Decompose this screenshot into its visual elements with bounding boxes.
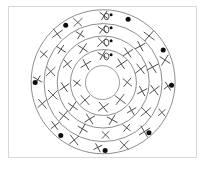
x-mark [46,67,55,76]
x-mark [135,64,145,74]
x-mark [38,99,47,108]
ring-label-x0 [104,53,113,60]
filled-dot-marker [126,17,131,22]
filled-dot-marker [161,47,166,52]
x-mark [77,124,87,134]
filled-dot-marker [63,23,68,28]
x-mark [149,85,159,95]
x-mark [160,55,170,65]
x-mark [158,109,165,116]
x-mark [107,115,117,125]
x-mark [123,124,131,132]
label-tiny-dot [110,26,113,29]
x-mark [63,60,71,69]
ring-label-x0 [104,39,113,46]
label-tiny-dot [110,39,113,42]
label-tiny-dot [110,13,113,16]
x-mark [115,94,125,104]
x-mark [52,29,62,39]
filled-dot-marker [103,148,108,153]
figure-frame [0,0,206,170]
x-mark [78,44,88,54]
filled-dot-marker [33,80,38,85]
x-mark [137,86,147,95]
x-mark [123,48,132,57]
ring-5-core [85,66,119,100]
x-mark [135,41,145,51]
x-mark [98,102,108,112]
x-mark [120,141,129,149]
x-mark [48,90,57,99]
x-mark [102,131,109,138]
x-mark [81,59,91,70]
x-mark [141,107,151,116]
x-mark [60,82,69,91]
x-mark [116,58,126,68]
filled-dot-marker [146,130,151,135]
x-mark [85,114,95,124]
x-mark [144,31,154,41]
x-mark [147,62,158,73]
x-mark [98,51,107,60]
x-mark [94,143,103,152]
x-mark [51,121,59,129]
ring-4 [70,49,136,115]
x-mark [76,30,84,39]
x-marks-group [33,11,171,152]
ring-label-x0 [104,26,113,33]
filled-dot-marker [169,83,174,88]
x-mark [57,45,66,54]
label-oval-zero [104,13,110,20]
concentric-ring-diagram [0,0,206,170]
x-mark [73,80,80,86]
x-mark [68,102,77,111]
x-mark [81,95,90,104]
x-mark [123,78,132,87]
filled-dot-marker [58,133,63,138]
x-mark [69,135,78,145]
x-mark [127,106,135,115]
label-tiny-dot [110,53,113,56]
x-mark [40,51,47,58]
label-oval-zero [104,39,110,46]
x-mark [59,111,69,121]
x-mark [73,18,82,26]
